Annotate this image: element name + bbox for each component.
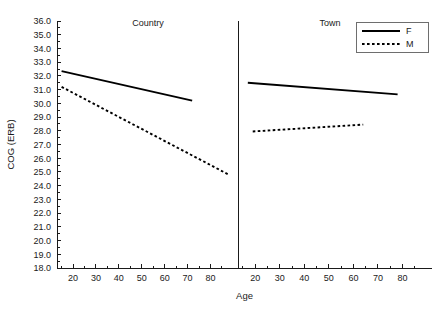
y-tick-label: 26.0 <box>33 154 51 164</box>
x-tick-label: 60 <box>348 273 358 283</box>
y-tick-label: 22.0 <box>33 208 51 218</box>
panel-title-town: Town <box>319 18 340 28</box>
x-tick-label: 80 <box>205 273 215 283</box>
y-tick-label: 21.0 <box>33 222 51 232</box>
series-line-m-town <box>253 125 364 132</box>
x-tick-label: 50 <box>324 273 334 283</box>
chart-figure: 36.035.034.033.032.031.030.029.028.027.0… <box>0 0 438 309</box>
y-tick-label: 36.0 <box>33 16 51 26</box>
legend-box <box>356 22 428 52</box>
panel-title-country: Country <box>132 18 164 28</box>
x-tick-label: 30 <box>91 273 101 283</box>
x-tick-label: 20 <box>68 273 78 283</box>
x-tick-label: 60 <box>160 273 170 283</box>
y-axis-title: COG (ERB) <box>5 119 16 169</box>
x-tick-label: 40 <box>114 273 124 283</box>
plot-area: 36.035.034.033.032.031.030.029.028.027.0… <box>0 0 438 309</box>
x-tick-label: 70 <box>183 273 193 283</box>
y-tick-label: 32.0 <box>33 71 51 81</box>
x-tick-label: 30 <box>275 273 285 283</box>
y-tick-label: 18.0 <box>33 263 51 273</box>
y-tick-label: 35.0 <box>33 30 51 40</box>
y-tick-label: 23.0 <box>33 195 51 205</box>
series-line-f-town <box>248 83 398 95</box>
y-tick-label: 31.0 <box>33 85 51 95</box>
x-tick-label: 80 <box>398 273 408 283</box>
y-tick-label: 20.0 <box>33 236 51 246</box>
x-tick-label: 50 <box>137 273 147 283</box>
y-tick-label: 25.0 <box>33 167 51 177</box>
y-tick-label: 34.0 <box>33 44 51 54</box>
series-line-m-country <box>62 87 229 175</box>
y-tick-label: 28.0 <box>33 126 51 136</box>
legend-label-f: F <box>406 26 412 36</box>
y-tick-label: 29.0 <box>33 112 51 122</box>
x-tick-label: 70 <box>373 273 383 283</box>
x-tick-label: 40 <box>299 273 309 283</box>
x-tick-label: 20 <box>250 273 260 283</box>
y-tick-label: 27.0 <box>33 140 51 150</box>
x-axis-title: Age <box>236 290 253 301</box>
y-tick-label: 24.0 <box>33 181 51 191</box>
legend-label-m: M <box>406 39 414 49</box>
y-tick-label: 19.0 <box>33 250 51 260</box>
y-tick-label: 30.0 <box>33 99 51 109</box>
y-tick-label: 33.0 <box>33 57 51 67</box>
